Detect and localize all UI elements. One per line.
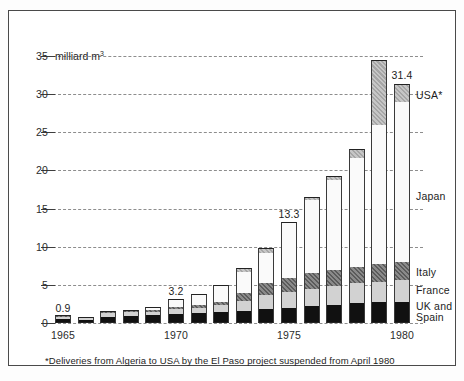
bar-segment-italy (326, 270, 342, 286)
y-axis-unit: milliard m3 (55, 50, 104, 63)
plot-area: 05101520253035milliard m30.93.213.331.4U… (53, 56, 423, 323)
bar-segment-uk-and-spain (326, 305, 342, 323)
bar-segment-france (236, 301, 252, 311)
gridline-35 (53, 56, 423, 57)
bar-segment-france (394, 280, 410, 301)
gridline-10 (53, 247, 423, 248)
gridline-20 (53, 170, 423, 171)
legend-label-italy: Italy (416, 267, 436, 278)
bar-1965[interactable] (55, 315, 71, 323)
chart-frame: 05101520253035milliard m30.93.213.331.4U… (8, 10, 456, 366)
legend-entry-italy: Italy (416, 267, 436, 278)
bar-segment-uk-and-spain (236, 311, 252, 323)
bar-segment-uk-and-spain (213, 312, 229, 323)
bar-1979[interactable] (371, 60, 387, 323)
footnote: *Deliveries from Algeria to USA by the E… (45, 355, 395, 366)
bar-1971[interactable] (191, 294, 207, 323)
bar-segment-france (304, 289, 320, 307)
legend-label-uk-2: Spain (416, 312, 452, 323)
legend-label-france: France (416, 285, 450, 296)
bar-segment-france (349, 283, 365, 303)
bar-segment-uk-and-spain (394, 302, 410, 323)
gridline-25 (53, 132, 423, 133)
bar-segment-japan (281, 222, 297, 278)
y-axis-label-15: 15 (36, 203, 48, 215)
bar-1970[interactable] (168, 299, 184, 323)
bar-segment-italy (394, 262, 410, 280)
bar-1977[interactable] (326, 176, 342, 323)
y-axis-label-5: 5 (42, 279, 48, 291)
bar-1968[interactable] (123, 310, 139, 323)
y-axis-label-10: 10 (36, 241, 48, 253)
bar-segment-usa (371, 60, 387, 125)
bar-segment-uk-and-spain (100, 317, 116, 323)
bar-segment-uk-and-spain (78, 320, 94, 323)
legend-entry-uk: UK andSpain (416, 301, 452, 323)
bar-1976[interactable] (304, 197, 320, 323)
bar-segment-france (281, 292, 297, 308)
bar-segment-uk-and-spain (281, 308, 297, 323)
bar-segment-italy (371, 264, 387, 282)
y-axis-label-0: 0 (42, 317, 48, 329)
bar-segment-japan (349, 158, 365, 266)
bar-segment-japan (304, 200, 320, 273)
y-axis-label-30: 30 (36, 88, 48, 100)
bar-segment-japan (168, 299, 184, 307)
x-axis-label-1970: 1970 (164, 329, 188, 341)
bar-segment-japan (191, 294, 207, 305)
bar-segment-france (371, 282, 387, 303)
bar-segment-usa (349, 149, 365, 158)
bar-segment-italy (236, 293, 252, 301)
y-axis-label-25: 25 (36, 126, 48, 138)
bar-segment-uk-and-spain (349, 303, 365, 323)
bar-segment-italy (281, 278, 297, 292)
data-label-1970: 3.2 (168, 285, 183, 297)
data-label-1980: 31.4 (391, 69, 412, 81)
bar-1969[interactable] (145, 307, 161, 323)
bar-segment-uk-and-spain (258, 309, 274, 323)
bar-segment-japan (326, 180, 342, 269)
bar-1980[interactable] (394, 84, 410, 324)
bar-segment-uk-and-spain (168, 314, 184, 323)
bar-segment-uk-and-spain (304, 306, 320, 323)
bar-segment-italy (304, 273, 320, 288)
gridline-15 (53, 209, 423, 210)
bar-1972[interactable] (213, 285, 229, 323)
gridline-30 (53, 94, 423, 95)
bar-segment-uk-and-spain (55, 319, 71, 323)
bar-segment-uk-and-spain (145, 315, 161, 323)
legend-label-japan: Japan (416, 191, 446, 202)
bar-1978[interactable] (349, 149, 365, 323)
bar-1975[interactable] (281, 222, 297, 323)
bar-segment-usa (394, 84, 410, 102)
bar-segment-italy (349, 267, 365, 284)
bar-segment-uk-and-spain (123, 316, 139, 323)
legend-entry-usa: USA* (416, 90, 442, 101)
bar-segment-japan (371, 125, 387, 265)
bar-segment-japan (258, 253, 274, 283)
bar-segment-japan (236, 272, 252, 293)
legend-entry-japan: Japan (416, 191, 446, 202)
bar-segment-japan (394, 102, 410, 262)
bar-segment-france (326, 286, 342, 305)
gridline-0 (53, 323, 423, 324)
bar-1973[interactable] (236, 268, 252, 323)
bar-segment-uk-and-spain (371, 302, 387, 323)
y-axis-label-20: 20 (36, 164, 48, 176)
bar-segment-italy (258, 283, 274, 295)
legend-label-usa: USA* (416, 90, 442, 101)
x-axis-label-1975: 1975 (277, 329, 301, 341)
bar-segment-uk-and-spain (191, 313, 207, 323)
x-axis-label-1965: 1965 (51, 329, 75, 341)
chart-root: 05101520253035milliard m30.93.213.331.4U… (0, 0, 464, 381)
bar-1967[interactable] (100, 311, 116, 323)
y-unit-exponent: 3 (100, 50, 104, 57)
x-axis-label-1980: 1980 (390, 329, 414, 341)
bar-segment-france (258, 295, 274, 309)
bar-segment-japan (213, 285, 229, 302)
data-label-1965: 0.9 (55, 302, 70, 314)
bar-1966[interactable] (78, 317, 94, 323)
bar-1974[interactable] (258, 248, 274, 323)
data-label-1975: 13.3 (278, 208, 299, 220)
bar-segment-france (213, 305, 229, 312)
